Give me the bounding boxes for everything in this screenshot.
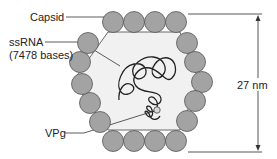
dimension-label: 27 nm [236,79,269,91]
vpg-protein [154,107,160,113]
capsid-label: Capsid [30,11,64,23]
vpg-label: VPg [45,127,66,139]
arrow-down-icon [256,145,261,151]
ssrna-bases-label: (7478 bases) [9,49,73,61]
virus-diagram: Capsid ssRNA (7478 bases) VPg 27 nm [0,0,277,159]
arrow-up-icon [256,15,261,21]
ssrna-label: ssRNA [9,36,43,48]
